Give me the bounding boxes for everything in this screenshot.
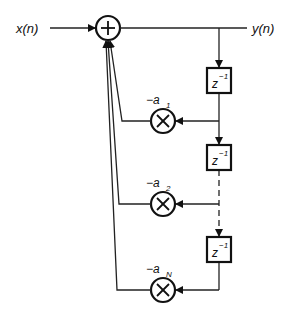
delay-block-n: z −1 — [207, 237, 231, 262]
multiplier-1 — [151, 109, 175, 133]
svg-text:N: N — [166, 270, 172, 279]
filter-diagram: x(n) y(n) z −1 z −1 z −1 — [0, 0, 295, 319]
svg-text:−1: −1 — [219, 72, 228, 81]
svg-text:2: 2 — [165, 184, 171, 193]
svg-text:z: z — [211, 154, 218, 168]
summer-node — [96, 16, 120, 40]
svg-text:−a: −a — [146, 176, 160, 190]
delay-block-2: z −1 — [207, 145, 231, 170]
svg-text:−a: −a — [146, 93, 160, 107]
delay-block-1: z −1 — [207, 68, 231, 93]
coef-label-2: −a 2 — [146, 176, 171, 193]
svg-text:1: 1 — [166, 101, 170, 110]
feedback-1 — [110, 41, 151, 121]
coef-label-1: −a 1 — [146, 93, 170, 110]
svg-text:−a: −a — [146, 262, 160, 276]
input-label: x(n) — [15, 21, 38, 36]
multiplier-2 — [151, 192, 175, 216]
svg-text:z: z — [211, 77, 218, 91]
svg-text:z: z — [211, 246, 218, 260]
feedback-2 — [108, 41, 151, 204]
feedback-n — [106, 41, 151, 290]
svg-text:−1: −1 — [219, 241, 228, 250]
svg-text:−1: −1 — [219, 149, 228, 158]
output-label: y(n) — [251, 21, 274, 36]
multiplier-n — [151, 278, 175, 302]
coef-label-n: −a N — [146, 262, 172, 279]
